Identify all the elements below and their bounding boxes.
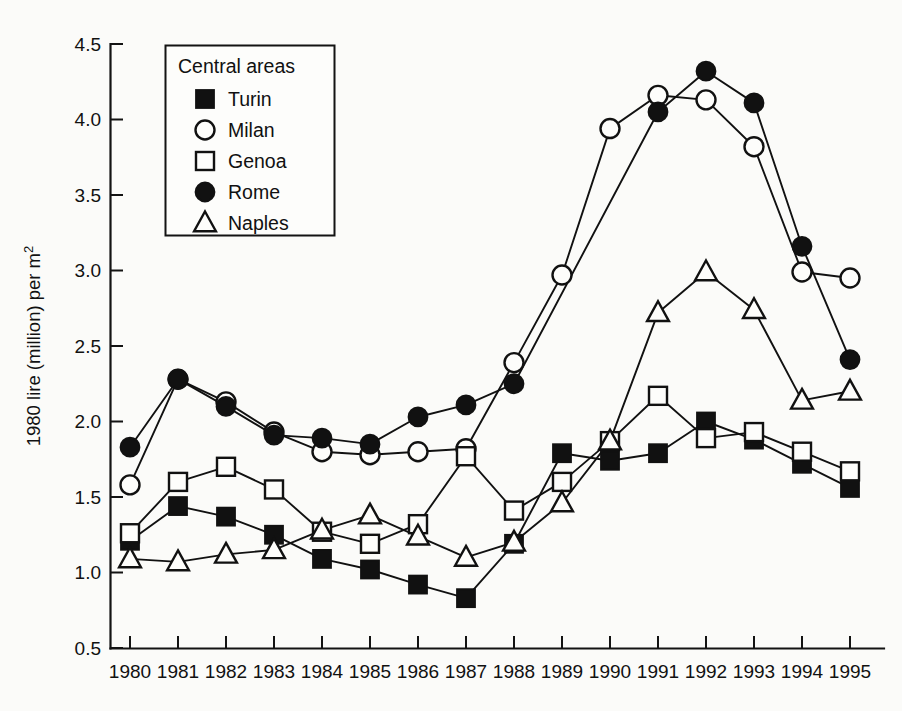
legend-entry-turin: Turin xyxy=(196,88,272,110)
data-point-rome-1986 xyxy=(409,407,428,426)
data-point-rome-1995 xyxy=(841,350,860,369)
data-point-naples-1985 xyxy=(359,504,381,524)
data-point-milan-1980 xyxy=(121,475,140,494)
data-point-rome-1984 xyxy=(313,429,332,448)
x-tick-label: 1986 xyxy=(397,661,439,682)
legend: Central areas TurinMilanGenoaRomeNaples xyxy=(166,46,335,236)
filled-square-icon xyxy=(196,90,214,108)
legend-entry-rome: Rome xyxy=(196,181,281,203)
data-point-genoa-1995 xyxy=(841,462,859,480)
series-line-naples xyxy=(130,272,850,562)
data-point-naples-1993 xyxy=(743,298,765,318)
x-tick-label: 1990 xyxy=(589,661,631,682)
data-point-genoa-1989 xyxy=(553,473,571,491)
data-point-rome-1991 xyxy=(649,102,668,121)
data-point-naples-1992 xyxy=(695,261,717,281)
data-point-genoa-1983 xyxy=(265,480,283,498)
x-tick-label: 1981 xyxy=(157,661,199,682)
data-point-genoa-1991 xyxy=(649,387,667,405)
data-point-milan-1994 xyxy=(793,263,812,282)
data-point-genoa-1987 xyxy=(457,447,475,465)
legend-entry-milan: Milan xyxy=(196,119,275,141)
data-point-genoa-1985 xyxy=(361,535,379,553)
legend-entry-label: Milan xyxy=(228,119,275,141)
x-tick-label: 1992 xyxy=(685,661,727,682)
data-point-genoa-1988 xyxy=(505,502,523,520)
data-point-rome-1992 xyxy=(697,62,716,81)
data-point-genoa-1981 xyxy=(169,473,187,491)
data-point-rome-1983 xyxy=(265,426,284,445)
y-tick-label: 2.5 xyxy=(75,336,101,357)
open-circle-icon xyxy=(196,121,215,140)
data-point-milan-1986 xyxy=(409,442,428,461)
y-tick-label: 4.5 xyxy=(75,34,101,55)
x-tick-label: 1983 xyxy=(253,661,295,682)
y-tick-label: 0.5 xyxy=(75,638,101,659)
data-point-rome-1980 xyxy=(121,438,140,457)
data-point-milan-1988 xyxy=(505,353,524,372)
data-point-genoa-1982 xyxy=(217,458,235,476)
x-tick-label: 1982 xyxy=(205,661,247,682)
svg-text:1980 lire (million) per m2: 1980 lire (million) per m2 xyxy=(21,246,44,447)
data-point-genoa-1980 xyxy=(121,524,139,542)
data-point-turin-1982 xyxy=(217,508,235,526)
data-point-naples-1995 xyxy=(839,380,861,400)
data-point-milan-1993 xyxy=(745,137,764,156)
legend-entry-label: Turin xyxy=(228,88,272,110)
open-square-icon xyxy=(196,152,214,170)
data-point-turin-1987 xyxy=(457,589,475,607)
data-point-turin-1990 xyxy=(601,452,619,470)
data-point-rome-1985 xyxy=(361,435,380,454)
data-point-rome-1993 xyxy=(745,93,764,112)
x-tick-label: 1984 xyxy=(301,661,344,682)
x-tick-label: 1991 xyxy=(637,661,679,682)
y-tick-label: 4.0 xyxy=(75,109,101,130)
legend-title: Central areas xyxy=(178,55,295,77)
data-point-genoa-1993 xyxy=(745,423,763,441)
y-tick-label: 3.0 xyxy=(75,260,101,281)
filled-circle-icon xyxy=(196,183,215,202)
x-tick-label: 1980 xyxy=(109,661,151,682)
y-axis-title-text: 1980 lire (million) per m xyxy=(23,253,44,446)
x-axis-ticks: 1980198119821983198419851986198719881989… xyxy=(109,636,871,682)
legend-entry-label: Naples xyxy=(228,212,289,234)
data-point-milan-1992 xyxy=(697,90,716,109)
y-axis-ticks: 4.54.03.53.02.52.01.51.00.5 xyxy=(75,34,123,659)
data-point-rome-1988 xyxy=(505,374,524,393)
y-axis-title-superscript: 2 xyxy=(21,246,36,253)
legend-entry-label: Genoa xyxy=(228,150,287,172)
legend-entry-label: Rome xyxy=(228,181,280,203)
data-point-turin-1981 xyxy=(169,497,187,515)
data-point-milan-1990 xyxy=(601,119,620,138)
legend-entry-genoa: Genoa xyxy=(196,150,287,172)
y-axis-title: 1980 lire (million) per m2 xyxy=(21,246,44,447)
x-tick-label: 1988 xyxy=(493,661,535,682)
data-point-genoa-1992 xyxy=(697,429,715,447)
data-point-turin-1995 xyxy=(841,479,859,497)
y-tick-label: 1.0 xyxy=(75,562,101,583)
series-line-turin xyxy=(130,422,850,599)
x-tick-label: 1987 xyxy=(445,661,487,682)
x-tick-label: 1993 xyxy=(733,661,775,682)
y-tick-label: 2.0 xyxy=(75,411,101,432)
x-tick-label: 1994 xyxy=(781,661,824,682)
line-path xyxy=(130,422,850,599)
data-point-turin-1991 xyxy=(649,444,667,462)
data-point-rome-1982 xyxy=(217,397,236,416)
data-point-turin-1985 xyxy=(361,560,379,578)
x-tick-label: 1995 xyxy=(829,661,871,682)
data-point-turin-1984 xyxy=(313,550,331,568)
data-point-turin-1992 xyxy=(697,413,715,431)
data-point-rome-1994 xyxy=(793,237,812,256)
data-point-milan-1995 xyxy=(841,269,860,288)
data-point-rome-1987 xyxy=(457,395,476,414)
x-tick-label: 1985 xyxy=(349,661,391,682)
data-point-turin-1986 xyxy=(409,576,427,594)
x-tick-label: 1989 xyxy=(541,661,583,682)
y-tick-label: 1.5 xyxy=(75,487,101,508)
y-tick-label: 3.5 xyxy=(75,185,101,206)
line-path xyxy=(130,272,850,562)
line-chart: 4.54.03.53.02.52.01.51.00.5 198019811982… xyxy=(0,0,902,711)
data-point-genoa-1994 xyxy=(793,443,811,461)
data-point-turin-1989 xyxy=(553,444,571,462)
